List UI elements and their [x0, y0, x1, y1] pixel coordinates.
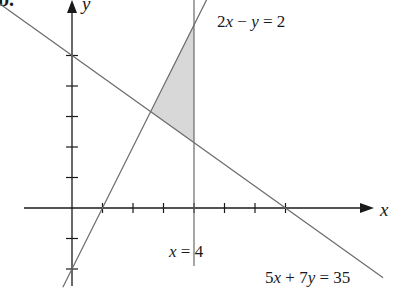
- shaded-region: [151, 25, 194, 143]
- label-2x-minus-y: 2x − y = 2: [217, 12, 285, 31]
- x-axis-arrowhead-icon: [360, 203, 374, 213]
- line-2xy: [63, 0, 234, 287]
- label-5x-plus-7y: 5x + 7y = 35: [265, 268, 350, 287]
- y-axis-arrowhead-icon: [67, 0, 77, 13]
- x-axis-label: x: [379, 199, 389, 220]
- y-axis-label: y: [80, 0, 91, 14]
- label-x-equals-4: x = 4: [168, 242, 204, 261]
- feasible-region-diagram: b. y x 2x − y = 2 x = 4 5x + 7y = 35: [0, 0, 398, 293]
